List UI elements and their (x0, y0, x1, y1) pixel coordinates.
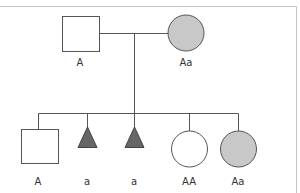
father-genotype-label: A (77, 57, 84, 68)
child-1-square (22, 130, 59, 164)
pedigree-diagram: A Aa A a a AA Aa (0, 0, 300, 193)
child-1-genotype-label: A (35, 176, 42, 187)
child-3-triangle (125, 127, 144, 148)
mother-circle (168, 15, 204, 51)
child-4-genotype-label: AA (182, 176, 196, 187)
mother-genotype-label: Aa (180, 57, 193, 68)
child-2-triangle (78, 127, 97, 148)
child-2-genotype-label: a (84, 176, 90, 187)
child-4-circle (172, 131, 208, 167)
child-5-genotype-label: Aa (232, 176, 245, 187)
child-3-genotype-label: a (131, 176, 137, 187)
child-5-circle (221, 131, 257, 167)
father-square (63, 17, 100, 52)
